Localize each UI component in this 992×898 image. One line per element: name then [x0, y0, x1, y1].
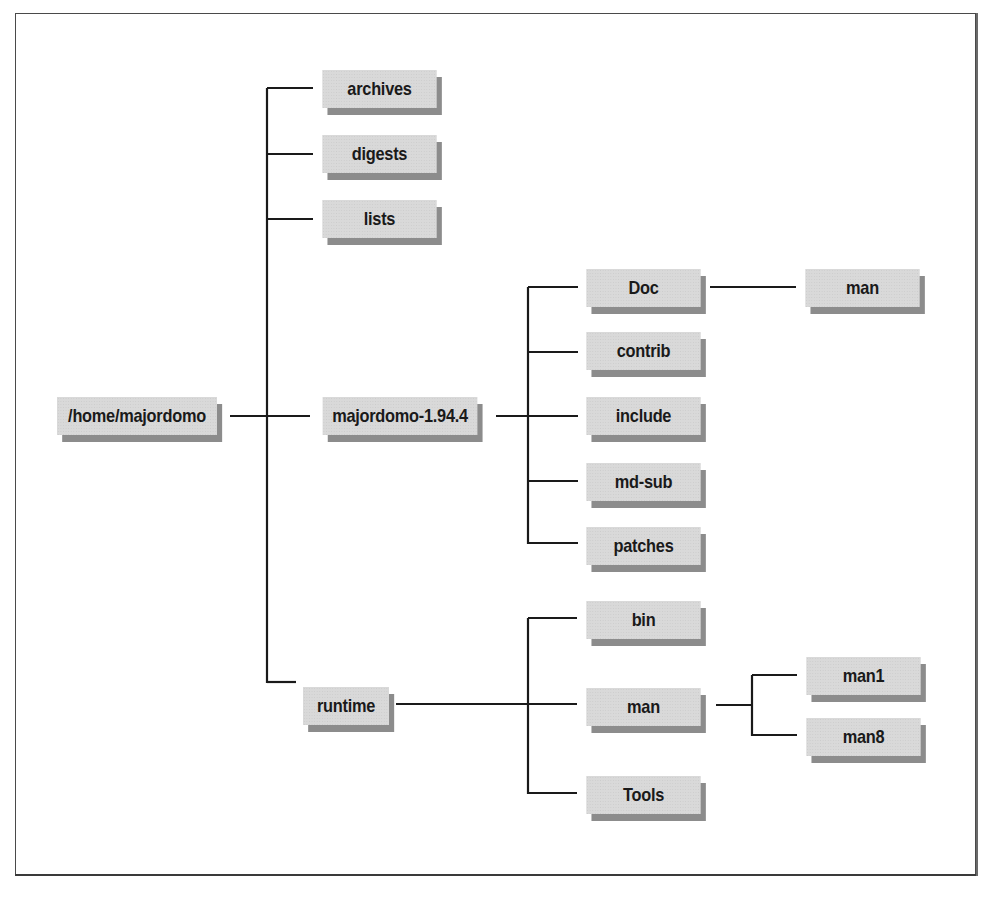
node-label: man1	[843, 665, 885, 687]
node-lists[interactable]: lists	[322, 200, 436, 238]
node-label: md-sub	[615, 471, 672, 493]
node-majordomo-1-94-4[interactable]: majordomo-1.94.4	[323, 397, 478, 435]
node-label: Doc	[628, 277, 658, 299]
node-runtime-man[interactable]: man	[586, 688, 700, 726]
node-label: bin	[632, 609, 656, 631]
node-label: runtime	[317, 695, 375, 717]
node-label: patches	[614, 535, 674, 557]
node-label: Tools	[623, 784, 664, 806]
node-man1[interactable]: man1	[806, 657, 920, 695]
node-digests[interactable]: digests	[322, 135, 436, 173]
node-contrib[interactable]: contrib	[586, 332, 700, 370]
node-label: digests	[352, 143, 407, 165]
node-man8[interactable]: man8	[806, 718, 920, 756]
node-label: man	[627, 696, 660, 718]
node-patches[interactable]: patches	[586, 527, 700, 565]
node-label: archives	[347, 78, 411, 100]
node-home-majordomo[interactable]: /home/majordomo	[57, 397, 217, 435]
node-label: /home/majordomo	[68, 405, 206, 427]
node-label: man	[846, 277, 879, 299]
node-doc[interactable]: Doc	[586, 269, 700, 307]
node-tools[interactable]: Tools	[586, 776, 700, 814]
node-bin[interactable]: bin	[586, 601, 700, 639]
node-archives[interactable]: archives	[322, 70, 436, 108]
node-label: contrib	[617, 340, 671, 362]
node-label: lists	[364, 208, 395, 230]
node-doc-man[interactable]: man	[805, 269, 919, 307]
node-runtime[interactable]: runtime	[303, 687, 389, 725]
node-include[interactable]: include	[586, 397, 700, 435]
connector-lines	[0, 0, 992, 898]
node-md-sub[interactable]: md-sub	[586, 463, 700, 501]
node-label: include	[616, 405, 671, 427]
node-label: man8	[843, 726, 885, 748]
node-label: majordomo-1.94.4	[332, 405, 468, 427]
